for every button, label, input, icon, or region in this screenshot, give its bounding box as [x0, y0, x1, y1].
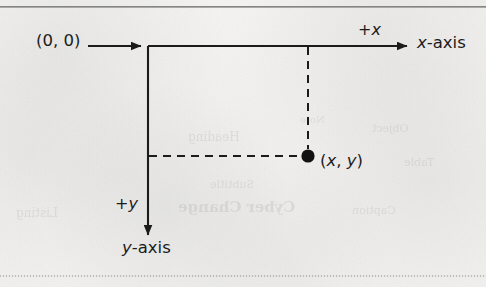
positive-x-variable: x — [371, 20, 380, 39]
point-label-x-variable: x — [326, 151, 336, 170]
y-axis-label-suffix: -axis — [132, 238, 171, 257]
x-axis-label-suffix: -axis — [427, 33, 466, 52]
y-axis-label: y-axis — [122, 240, 171, 257]
x-axis-label-variable: x — [417, 33, 427, 52]
positive-y-sign: + — [115, 194, 128, 213]
plotted-point-marker — [301, 149, 314, 162]
positive-x-direction-label: +x — [358, 22, 381, 38]
point-label-close-paren: ) — [356, 151, 362, 170]
positive-x-sign: + — [358, 20, 371, 39]
x-axis-label: x-axis — [417, 35, 466, 52]
point-coordinate-label: (x, y) — [320, 153, 363, 170]
point-label-comma: , — [336, 151, 347, 170]
coordinate-system-figure: Cyber ChangeSubtitleHeadingCaptionObject… — [0, 0, 486, 287]
point-label-y-variable: y — [347, 151, 357, 170]
y-axis-label-variable: y — [122, 238, 132, 257]
positive-y-direction-label: +y — [115, 196, 138, 212]
origin-coordinate-label: (0, 0) — [36, 33, 80, 50]
positive-y-variable: y — [128, 194, 137, 213]
